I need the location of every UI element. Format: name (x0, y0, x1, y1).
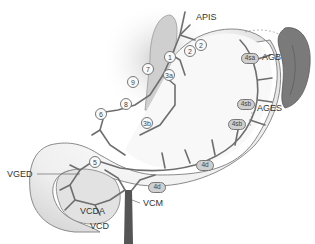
node-2b: 2 (195, 39, 207, 51)
node-4sb-lower: 4sb (228, 119, 246, 130)
label-apis: APIS (196, 13, 217, 22)
spleen (278, 28, 310, 108)
node-2a: 2 (184, 45, 196, 57)
node-4d-lower: 4d (148, 182, 166, 193)
portal-vein-trunk (124, 190, 133, 244)
node-1: 1 (164, 51, 176, 63)
node-4sb-upper: 4sb (237, 99, 255, 110)
label-vged: VGED (7, 170, 33, 179)
node-3a: 3a (163, 69, 175, 81)
label-vcm: VCM (143, 199, 163, 208)
label-vcd: VCD (90, 222, 109, 231)
node-4d-upper: 4d (196, 160, 214, 171)
label-ages: AGES (257, 104, 282, 113)
node-6: 5 (89, 156, 101, 168)
node-7: 7 (142, 63, 154, 75)
label-vcda: VCDA (80, 207, 105, 216)
node-5: 6 (95, 108, 107, 120)
node-3b: 3b (141, 117, 153, 129)
vcm-leader-line (132, 200, 140, 203)
label-agb: AGB (262, 53, 281, 62)
node-8: 8 (120, 98, 132, 110)
gastric-venous-diagram: APIS AGB AGES VGED VCDA VCM VCD 2 2 1 7 … (0, 0, 315, 244)
node-9: 9 (127, 76, 139, 88)
node-4sa: 4sa (241, 53, 259, 64)
